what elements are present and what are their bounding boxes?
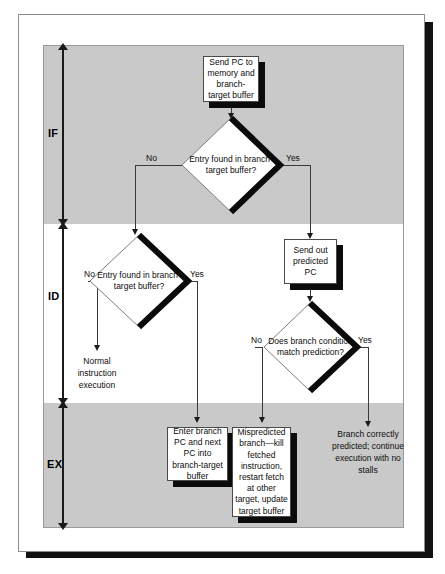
edge-label-cond-yes: Yes	[358, 335, 372, 345]
node-condition-match[interactable]: Does branch condition match prediction?	[263, 302, 358, 392]
edge-decision1-yes-v	[310, 165, 311, 237]
arrowhead-up-icon	[58, 222, 68, 229]
edge-label-id-yes: Yes	[190, 269, 204, 279]
arrowhead-down-icon	[194, 417, 200, 423]
edge-decision1-no-v	[135, 165, 136, 233]
arrowhead-up-icon	[58, 401, 68, 408]
node-mispredicted-branch[interactable]: Mispredicted branch—kill fetched instruc…	[232, 427, 291, 517]
edge-label-if-yes: Yes	[286, 153, 300, 163]
node-entry-found-id-label: Entry found in branch-target buffer?	[89, 234, 189, 328]
node-enter-branch-pc[interactable]: Enter branch PC and next PC into branch-…	[167, 427, 228, 481]
node-send-pc[interactable]: Send PC to memory and branch-target buff…	[203, 56, 259, 102]
stage-span-id	[62, 228, 64, 399]
node-send-predicted-pc[interactable]: Send out predicted PC	[284, 239, 337, 284]
stage-span-ex	[62, 407, 64, 524]
stage-label-id: ID	[48, 290, 60, 302]
stage-label-if: IF	[48, 127, 58, 139]
edge-decision1-no-h	[135, 165, 182, 166]
edge-decision2-yes-v	[197, 281, 198, 421]
edge-label-if-no: No	[146, 153, 157, 163]
node-entry-found-id[interactable]: Entry found in branch-target buffer?	[89, 234, 189, 328]
arrowhead-down-icon	[365, 421, 371, 427]
node-normal-execution: Normal instruction execution	[67, 355, 127, 391]
arrowhead-down-icon	[94, 345, 100, 351]
edge-decision3-yes-v	[368, 347, 369, 425]
stage-label-ex: EX	[47, 458, 62, 470]
arrowhead-down-icon	[259, 417, 265, 423]
edge-label-cond-no: No	[251, 335, 262, 345]
node-condition-match-label: Does branch condition match prediction?	[263, 302, 358, 392]
edge-decision1-yes-h	[281, 165, 311, 166]
flowchart-canvas: IF ID EX No Yes No Yes No Yes Send PC to…	[0, 0, 445, 574]
arrowhead-up-icon	[58, 43, 68, 50]
node-entry-found-if[interactable]: Entry found in branch-target buffer?	[181, 117, 281, 213]
node-branch-correctly-predicted: Branch correctly predicted; continue exe…	[332, 428, 404, 476]
node-entry-found-if-label: Entry found in branch-target buffer?	[181, 117, 281, 213]
stage-span-if	[62, 49, 64, 220]
arrowhead-down-icon	[58, 523, 68, 530]
